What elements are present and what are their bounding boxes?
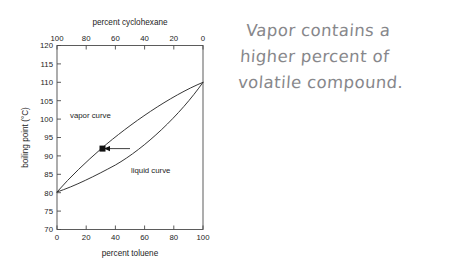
bottom-tick-label-5: 100 xyxy=(196,233,210,242)
bottom-axis-ticks xyxy=(57,226,203,230)
left-tick-label-85: 85 xyxy=(44,170,53,179)
y-axis-title: boiling point (°C) xyxy=(21,107,30,168)
top-tick-label-4: 20 xyxy=(169,34,178,43)
handwritten-note-line-2: higher percent of xyxy=(239,44,461,70)
left-tick-label-105: 105 xyxy=(40,97,54,106)
left-tick-label-120: 120 xyxy=(40,41,54,50)
left-tick-label-110: 110 xyxy=(41,78,54,87)
left-tick-label-90: 90 xyxy=(44,152,53,161)
vapor-curve-path xyxy=(57,82,203,192)
top-tick-label-5: 0 xyxy=(201,34,206,43)
bottom-tick-label-4: 80 xyxy=(169,233,178,242)
bottom-tick-label-0: 0 xyxy=(55,233,60,242)
top-tick-label-2: 60 xyxy=(111,34,120,43)
left-tick-label-70: 70 xyxy=(44,225,53,234)
plot-frame xyxy=(57,46,203,230)
left-axis-ticks xyxy=(57,46,61,230)
handwritten-note: Vapor contains a higher percent of volat… xyxy=(238,18,460,96)
top-axis-title: percent cyclohexane xyxy=(92,18,168,27)
bottom-tick-label-3: 60 xyxy=(140,233,149,242)
handwritten-note-line-3: volatile compound. xyxy=(237,70,461,96)
x-axis-title: percent toluene xyxy=(102,249,159,258)
bottom-tick-label-1: 20 xyxy=(82,233,91,242)
liquid-curve-path xyxy=(57,82,203,192)
top-tick-label-3: 40 xyxy=(140,34,149,43)
chart-canvas: 100 80 60 40 20 0 percent cyclohexane 0 … xyxy=(0,0,233,271)
left-tick-label-115: 115 xyxy=(41,60,54,69)
liquid-curve-label: liquid curve xyxy=(131,166,170,175)
left-tick-label-100: 100 xyxy=(40,115,54,124)
top-tick-label-1: 80 xyxy=(82,34,91,43)
tie-line-annotation xyxy=(100,146,131,152)
left-tick-label-75: 75 xyxy=(44,207,53,216)
boiling-point-phase-diagram: 100 80 60 40 20 0 percent cyclohexane 0 … xyxy=(0,0,233,271)
handwritten-note-line-1: Vapor contains a xyxy=(245,18,461,44)
bottom-tick-label-2: 40 xyxy=(111,233,120,242)
left-tick-label-80: 80 xyxy=(44,189,53,198)
left-tick-label-95: 95 xyxy=(44,133,53,142)
vapor-curve-label: vapor curve xyxy=(70,111,111,120)
top-axis-ticks xyxy=(57,46,203,50)
